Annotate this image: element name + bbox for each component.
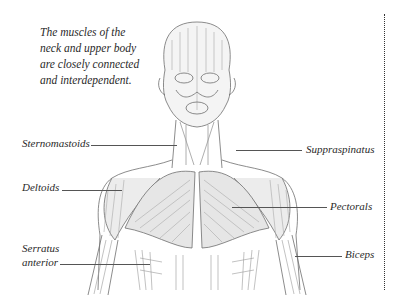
caption: The muscles of the neck and upper body a…	[40, 24, 160, 88]
leader-deltoids	[62, 190, 122, 191]
label-biceps: Biceps	[345, 248, 374, 261]
leader-pectorals	[232, 207, 327, 208]
caption-line-2: neck and upper body	[40, 40, 160, 56]
leader-serratus-anterior	[60, 264, 150, 265]
label-serratus-anterior-line1: Serratus	[22, 242, 59, 255]
dotted-divider	[384, 14, 385, 290]
caption-line-1: The muscles of the	[40, 24, 160, 40]
label-sternomastoids: Sternomastoids	[22, 137, 90, 150]
leader-biceps	[295, 256, 342, 257]
label-suppraspinatus: Suppraspinatus	[306, 143, 374, 156]
leader-suppraspinatus	[236, 150, 302, 151]
caption-line-4: and interdependent.	[40, 72, 160, 88]
caption-line-3: are closely connected	[40, 56, 160, 72]
leader-sternomastoids	[91, 145, 177, 146]
label-deltoids: Deltoids	[22, 181, 59, 194]
label-pectorals: Pectorals	[330, 200, 372, 213]
label-serratus-anterior-line2: anterior	[22, 256, 58, 269]
